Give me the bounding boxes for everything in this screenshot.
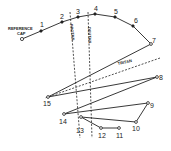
cap-label-8: 8 (159, 74, 163, 81)
cap-label-13: 13 (76, 127, 84, 134)
cap-point-1 (40, 30, 42, 32)
cap-label-10: 10 (132, 125, 140, 132)
cap-arrangement-diagram: PROTAN DEUTAN TRITAN REFERENCE CAP 1 2 3… (0, 0, 171, 151)
tritan-axis-line (45, 58, 160, 98)
cap-label-11: 11 (116, 132, 123, 139)
cap-point-10 (135, 121, 138, 124)
reference-cap-label-2: CAP (17, 31, 26, 36)
cap-label-9: 9 (150, 102, 154, 109)
cap-point-3 (77, 16, 79, 18)
cap-label-12: 12 (98, 132, 106, 139)
cap-point-14 (63, 113, 66, 116)
cap-label-3: 3 (76, 8, 80, 15)
cap-label-6: 6 (134, 17, 138, 24)
cap-point-11 (118, 127, 121, 130)
deutan-label: DEUTAN (87, 27, 93, 44)
cap-point-5 (114, 16, 116, 18)
cap-label-15: 15 (43, 100, 51, 107)
cap-point-8 (156, 76, 159, 79)
cap-label-4: 4 (94, 5, 98, 12)
cap-point-2 (61, 21, 63, 23)
protan-label: PROTAN (69, 24, 76, 41)
cap-point-13 (80, 116, 83, 119)
reference-cap-point (20, 37, 23, 40)
cap-point-9 (147, 102, 150, 105)
cap-label-2: 2 (60, 13, 64, 20)
cap-point-12 (100, 127, 103, 130)
cap-point-4 (94, 13, 96, 15)
cap-label-1: 1 (40, 21, 44, 28)
cap-label-5: 5 (114, 8, 118, 15)
tritan-label: TRITAN (117, 58, 132, 66)
cap-point-6 (132, 25, 134, 27)
cap-label-7: 7 (152, 37, 156, 44)
cap-label-14: 14 (59, 118, 67, 125)
cap-point-15 (47, 96, 50, 99)
